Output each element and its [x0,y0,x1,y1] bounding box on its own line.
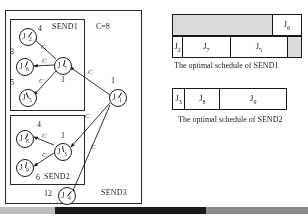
node-subscript: 9 [26,168,29,174]
node-letter: J [58,62,61,70]
node-subscript: 5 [29,98,32,104]
edge-label-j7-j5: C [39,78,44,85]
schedule-send2: J3 J8 J9 The optimal schedule of SEND2 [172,88,287,112]
page-edge-bar [0,207,308,214]
schedule-cell-j3[interactable]: J3 [173,89,185,109]
node-weight-j5: 5 [10,79,14,87]
edge-label-j7-j6: C [42,58,47,65]
node-weight-j7: 1 [61,76,65,84]
schedule-cell-idle-upper[interactable] [173,15,273,35]
graph-node-j5[interactable]: J 5 [19,89,37,107]
page-edge-bar-segment [55,207,206,214]
node-subscript: 8 [26,139,29,145]
cell-label: J5 [256,42,262,53]
schedule-send2-row: J3 J8 J9 [172,88,287,110]
node-subscript: 3 [64,152,67,158]
region-label-send2: SEND2 [44,173,70,181]
node-letter: J [62,192,65,200]
node-subscript: 6 [26,67,29,73]
node-subscript: 4 [68,196,71,202]
page-edge-bar-segment [0,207,55,214]
node-hand-icon [25,92,28,98]
cell-label: J8 [199,94,205,105]
schedule-cell-j2[interactable]: J2 [173,37,183,57]
page-edge-bar-segment [206,207,308,214]
graph-node-j9[interactable]: J 9 [16,159,34,177]
schedule-send2-caption: The optimal schedule of SEND2 [178,116,282,124]
schedule-send1-row-lower: J2 J7 J5 [172,36,302,58]
node-letter: J [23,33,26,41]
cell-label: J7 [203,42,209,53]
node-weight-j1: 1 [111,77,115,85]
graph-node-j2[interactable]: J 2 [19,28,37,46]
schedule-cell-j6[interactable]: J6 [273,15,301,35]
schedule-cell-j7[interactable]: J7 [183,37,230,57]
node-weight-j8: 4 [37,121,41,129]
node-weight-j4: 12 [44,190,52,198]
edge-label-j1-j4: C [91,144,96,151]
schedule-send1-row-upper: J6 [172,14,302,36]
graph-node-j3[interactable]: J 3 [54,143,72,161]
cost-annotation: C=8 [96,23,110,31]
region-label-send3: SEND3 [101,189,127,197]
graph-node-j6[interactable]: J 6 [16,58,34,76]
schedule-cell-j5[interactable]: J5 [231,37,289,57]
edge-label-j7-j2: C [41,44,46,51]
cell-label: J9 [250,94,256,105]
node-subscript: 1 [119,98,122,104]
node-letter: J [58,148,61,156]
cell-label: J3 [176,94,182,105]
node-letter: J [20,63,23,71]
edge-label-j3-j8: C [42,133,47,140]
graph-node-j7[interactable]: J 7 [54,57,72,75]
schedule-send1-caption: The optimal schedule of SEND1 [174,62,278,70]
graph-node-j8[interactable]: J 8 [16,130,34,148]
precedence-graph-panel: J 2 J 6 J 5 J 7 J 8 J 9 J 3 J 1 J 4 [5,10,142,204]
node-letter: J [20,135,23,143]
schedule-cell-j8[interactable]: J8 [185,89,220,109]
cell-label: J2 [174,42,180,53]
cell-label: J6 [284,20,290,31]
node-letter: J [23,94,26,102]
node-weight-j3: 1 [61,132,65,140]
graph-node-j1[interactable]: J 1 [109,89,127,107]
node-weight-j6: 3 [10,48,14,56]
schedule-cell-j9[interactable]: J9 [220,89,286,109]
node-weight-j9: 6 [36,174,40,182]
node-subscript: 2 [29,37,32,43]
node-weight-j2: 4 [38,25,42,33]
schedule-send1: J6 J2 J7 J5 The optimal schedule of SEND… [172,14,302,62]
schedule-cell-idle-lower[interactable] [288,37,301,57]
edge-label-j1-j3: C [85,113,90,120]
graph-node-j4[interactable]: J 4 [58,187,76,205]
node-letter: J [113,94,116,102]
edge-label-j3-j9: C [42,152,47,159]
node-subscript: 7 [64,66,67,72]
region-label-send1: SEND1 [52,23,78,31]
edge-label-j1-j7: C [88,69,93,76]
node-letter: J [20,164,23,172]
